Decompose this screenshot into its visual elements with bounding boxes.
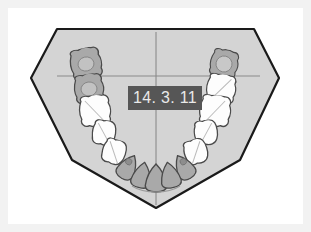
chart-date-label: 14. 3. 11 [128, 86, 202, 110]
dental-arch-diagram [8, 8, 303, 224]
dental-chart-app: 14. 3. 11 [0, 0, 311, 232]
figure-mat-frame: 14. 3. 11 [8, 8, 303, 224]
